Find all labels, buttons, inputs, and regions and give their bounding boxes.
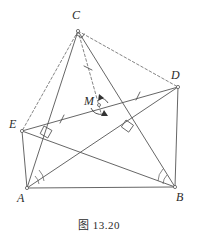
rotation-arrow-lower-head xyxy=(101,110,108,116)
vertex-dot-M xyxy=(98,104,101,107)
vertex-label-C: C xyxy=(72,9,80,21)
segment-BE xyxy=(22,131,175,187)
geometry-figure: C D E M A B 图 13.20 xyxy=(0,0,198,243)
segment-BC xyxy=(78,31,175,187)
vertex-label-A: A xyxy=(17,192,24,204)
segment-BD xyxy=(175,87,178,187)
vertex-label-E: E xyxy=(9,118,16,130)
segment-AC xyxy=(27,31,78,188)
vertex-dot-A xyxy=(25,186,28,189)
vertex-label-B: B xyxy=(176,191,183,203)
dashed-segments-group xyxy=(22,31,178,131)
angle-arc-at-B xyxy=(158,169,163,181)
right-angle-near-D xyxy=(121,119,135,132)
vertex-label-D: D xyxy=(171,69,180,81)
figure-caption: 图 13.20 xyxy=(0,216,198,232)
segment-AE xyxy=(22,131,27,188)
vertex-dot-D xyxy=(176,85,179,88)
tick-CM xyxy=(84,66,92,70)
rotation-arrow-upper-head xyxy=(98,94,104,101)
segment-CD-dashed xyxy=(78,31,178,87)
vertex-dot-B xyxy=(173,185,176,188)
segment-AB xyxy=(27,187,175,188)
right-angle-near-E xyxy=(40,126,53,139)
tick-MD xyxy=(136,92,140,100)
geometry-canvas xyxy=(0,0,198,243)
segment-ED xyxy=(22,87,178,131)
vertex-dot-C xyxy=(76,29,79,32)
vertex-dot-E xyxy=(20,129,23,132)
vertex-label-M: M xyxy=(84,95,94,107)
segment-AD xyxy=(27,87,178,188)
